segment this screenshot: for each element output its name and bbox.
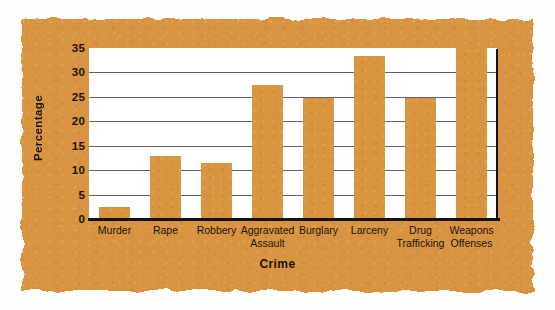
x-axis-tick-labels: MurderRapeRobberyAggravated AssaultBurgl… [89, 224, 497, 258]
x-axis-line [88, 218, 500, 221]
x-axis-title: Crime [0, 257, 555, 271]
x-axis-tick-label: Burglary [299, 224, 338, 237]
y-axis-tick-label: 0 [41, 213, 85, 225]
y-axis-tick-labels: 05101520253035 [41, 48, 85, 219]
gridline [89, 72, 497, 73]
y-axis-tick-label: 20 [41, 115, 85, 127]
y-axis-tick-label: 5 [41, 189, 85, 201]
x-axis-tick-label: Rape [153, 224, 178, 237]
bar [405, 98, 437, 219]
y-axis-tick-label: 30 [41, 66, 85, 78]
x-axis-tick-label: Drug Trafficking [397, 224, 445, 249]
x-axis-tick-label: Murder [98, 224, 131, 237]
y-axis-tick-label: 15 [41, 140, 85, 152]
bar [252, 85, 284, 219]
bar-chart-figure: Percentage 05101520253035 MurderRapeRobb… [0, 0, 555, 310]
x-axis-tick-label: Larceny [351, 224, 388, 237]
y-axis-tick-label: 10 [41, 164, 85, 176]
bar [150, 156, 182, 220]
x-axis-tick-label: Robbery [197, 224, 237, 237]
y-axis-tick-label: 25 [41, 91, 85, 103]
bar [201, 163, 233, 219]
plot-area [89, 48, 497, 219]
bar [456, 48, 488, 219]
x-axis-tick-label: Weapons Offenses [449, 224, 493, 249]
x-axis-tick-label: Aggravated Assault [241, 224, 295, 249]
right-axis-line [496, 49, 498, 221]
y-axis-tick-label: 35 [41, 42, 85, 54]
bar [303, 98, 335, 219]
bar [354, 56, 386, 219]
